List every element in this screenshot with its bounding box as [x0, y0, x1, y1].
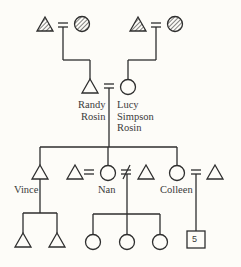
paternal-grandfather-triangle — [37, 17, 53, 31]
randy-triangle — [82, 79, 98, 93]
randy-last-name: Rosin — [78, 111, 105, 123]
vince-son-2-triangle — [49, 233, 65, 247]
colleen-husband-triangle — [207, 165, 223, 179]
maternal-grandmother-circle — [168, 17, 183, 32]
colleen-children-count: 5 — [192, 234, 197, 246]
paternal-grandmother-circle — [75, 17, 90, 32]
nan-daughter-3-circle — [153, 235, 168, 250]
lucy-circle — [121, 80, 136, 95]
vince-son-1-triangle — [15, 233, 31, 247]
vince-label: Vince — [14, 184, 38, 196]
nan-daughter-1-circle — [86, 235, 101, 250]
nan-first-husband-triangle — [67, 165, 83, 179]
randy-first-name: Randy — [78, 99, 105, 111]
colleen-label: Colleen — [160, 184, 193, 196]
lucy-label: Lucy Simpson Rosin — [117, 99, 154, 134]
lucy-first-name: Lucy — [117, 99, 154, 111]
maternal-grandfather-triangle — [130, 17, 146, 31]
kinship-diagram: Randy Rosin Lucy Simpson Rosin Vince Nan… — [0, 0, 241, 267]
colleen-circle — [170, 166, 185, 181]
nan-label: Nan — [98, 184, 116, 196]
vince-triangle — [32, 165, 48, 179]
nan-circle — [101, 166, 116, 181]
lucy-last-name: Rosin — [117, 122, 154, 134]
kinship-lines — [0, 0, 241, 267]
randy-label: Randy Rosin — [78, 99, 105, 122]
lucy-middle-name: Simpson — [117, 111, 154, 123]
nan-daughter-2-circle — [120, 235, 135, 250]
nan-second-husband-triangle — [138, 165, 154, 179]
